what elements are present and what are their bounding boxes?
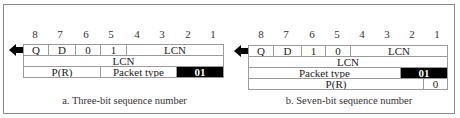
bit-number: 1 (427, 28, 447, 40)
bit-number-row: 8 7 6 5 4 3 2 1 (23, 28, 223, 40)
packet-type-cell: Packet type (100, 66, 177, 78)
figure-three-bit: 8 7 6 5 4 3 2 1 Q D 0 1 LCN LCN P(R) Pac… (0, 0, 230, 118)
bit-number: 4 (127, 28, 147, 40)
bit-number: 5 (327, 28, 347, 40)
bit-number: 4 (352, 28, 372, 40)
bit-number: 5 (101, 28, 121, 40)
bit-number-row: 8 7 6 5 4 3 2 1 (249, 28, 449, 40)
octet-row-3: P(R) Packet type 01 (24, 67, 225, 78)
bit-number: 6 (76, 28, 96, 40)
caption-seven-bit: b. Seven-bit sequence number (249, 95, 449, 106)
bit-number: 2 (402, 28, 422, 40)
bit-number: 7 (276, 28, 296, 40)
bit-number: 8 (251, 28, 271, 40)
bit-number: 8 (25, 28, 45, 40)
octet-row-4: P(R) 0 (249, 79, 449, 90)
pr-cell: P(R) (248, 78, 424, 90)
bit-number: 3 (377, 28, 397, 40)
bit-number: 2 (178, 28, 198, 40)
bit-number: 7 (50, 28, 70, 40)
bit-number: 6 (302, 28, 322, 40)
type-01-cell: 01 (176, 66, 224, 78)
pr-cell: P(R) (23, 66, 101, 78)
bit-number: 1 (203, 28, 223, 40)
caption-three-bit: a. Three-bit sequence number (24, 95, 225, 106)
figure-seven-bit: 8 7 6 5 4 3 2 1 Q D 1 0 LCN LCN Packet t… (230, 0, 460, 118)
bit-number: 3 (152, 28, 172, 40)
bit-1-zero-cell: 0 (423, 78, 448, 90)
